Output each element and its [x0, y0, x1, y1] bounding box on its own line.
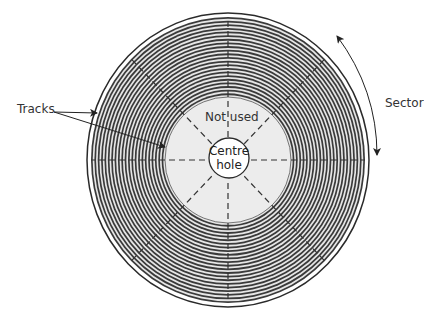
centre-hole-label-line1: Centre [207, 144, 251, 158]
tracks-label: Tracks [17, 102, 55, 116]
centre-hole-label: Centre hole [207, 144, 251, 172]
tracks-arrow-outer [54, 112, 97, 113]
centre-hole-label-line2: hole [207, 158, 251, 172]
sector-label: Sector [385, 96, 424, 110]
not-used-label: Not used [205, 110, 259, 124]
